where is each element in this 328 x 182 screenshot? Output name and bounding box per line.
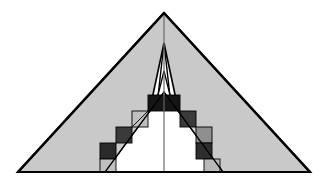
diagram-canvas [0, 0, 328, 182]
right-staircase-square-2 [196, 127, 212, 143]
left-staircase-square-3 [100, 143, 116, 159]
nested-triangle-diagram [0, 0, 328, 182]
left-staircase-square-2 [116, 127, 132, 143]
